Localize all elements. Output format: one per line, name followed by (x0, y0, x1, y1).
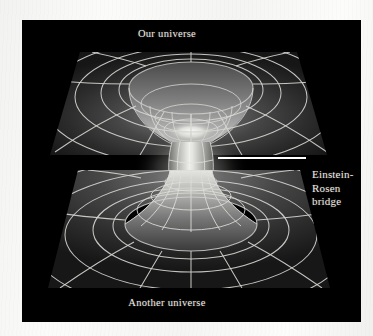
page-background: Our universe Another universe Einstein- … (0, 0, 373, 336)
annotation-line-1: Einstein- (312, 168, 361, 182)
wormhole-diagram (22, 20, 361, 322)
page-title-our-universe: Our universe (22, 28, 312, 39)
page-title-another-universe: Another universe (22, 297, 312, 308)
annotation-line-3: bridge (312, 195, 361, 209)
figure-panel: Our universe Another universe Einstein- … (22, 20, 361, 322)
einstein-rosen-bridge-label: Einstein- Rosen bridge (312, 168, 361, 209)
annotation-line-2: Rosen (312, 182, 361, 196)
